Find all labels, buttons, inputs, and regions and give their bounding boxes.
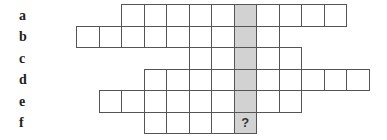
grid-cell[interactable] [211, 47, 235, 70]
grid-cell[interactable] [99, 26, 123, 49]
shaded-cell[interactable]: ? [234, 112, 258, 135]
grid-cell[interactable] [144, 4, 168, 27]
grid-cell[interactable] [189, 69, 213, 92]
grid-cell[interactable] [99, 90, 123, 113]
grid-cell[interactable] [189, 4, 213, 27]
grid-cell[interactable] [301, 4, 325, 27]
row-label-e: e [19, 91, 31, 112]
grid-cell[interactable] [211, 112, 235, 135]
grid-cell[interactable] [144, 90, 168, 113]
grid-cell[interactable] [166, 26, 190, 49]
shaded-cell[interactable] [234, 90, 258, 113]
grid-cell[interactable] [256, 69, 280, 92]
grid-cell[interactable] [256, 90, 280, 113]
grid-cell[interactable] [301, 69, 325, 92]
grid-cell[interactable] [189, 90, 213, 113]
grid-cell[interactable] [211, 4, 235, 27]
grid-cell[interactable] [166, 112, 190, 135]
row-label-b: b [19, 26, 31, 47]
grid-cell[interactable] [279, 90, 303, 113]
grid-cell[interactable] [189, 112, 213, 135]
grid-cell[interactable] [121, 26, 145, 49]
grid-cell[interactable] [166, 90, 190, 113]
grid-cell[interactable] [279, 4, 303, 27]
shaded-cell[interactable] [234, 69, 258, 92]
grid-cell[interactable] [121, 90, 145, 113]
grid-cell[interactable] [279, 47, 303, 70]
grid-cell[interactable] [256, 47, 280, 70]
row-label-f: f [19, 112, 31, 133]
shaded-cell[interactable] [234, 47, 258, 70]
row-label-a: a [19, 5, 31, 26]
grid-cell[interactable] [144, 112, 168, 135]
grid-cell[interactable] [121, 4, 145, 27]
grid-cell[interactable] [189, 47, 213, 70]
grid-cell[interactable] [346, 69, 370, 92]
grid-cell[interactable] [144, 69, 168, 92]
grid-cell[interactable] [324, 4, 348, 27]
grid-cell[interactable] [76, 26, 100, 49]
grid-cell[interactable] [211, 26, 235, 49]
grid-cell[interactable] [166, 4, 190, 27]
row-label-d: d [19, 69, 31, 90]
shaded-cell[interactable] [234, 4, 258, 27]
grid-cell[interactable] [256, 26, 280, 49]
grid-cell[interactable] [279, 69, 303, 92]
grid-cell[interactable] [324, 69, 348, 92]
grid-cell[interactable] [211, 69, 235, 92]
grid-cell[interactable] [144, 26, 168, 49]
grid-cell[interactable] [256, 4, 280, 27]
grid-cell[interactable] [189, 26, 213, 49]
grid-cell[interactable] [211, 90, 235, 113]
row-label-c: c [19, 48, 31, 69]
shaded-cell[interactable] [234, 26, 258, 49]
grid-cell[interactable] [166, 69, 190, 92]
